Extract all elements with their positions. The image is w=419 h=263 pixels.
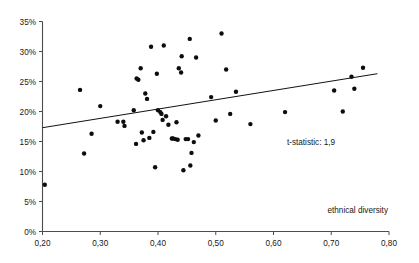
data-point xyxy=(209,95,213,99)
data-point xyxy=(140,130,144,134)
data-point xyxy=(228,112,232,116)
data-point xyxy=(332,88,336,92)
data-point xyxy=(361,66,365,70)
data-point xyxy=(141,138,145,142)
data-point xyxy=(179,54,183,58)
scatter-chart-figure: 0%5%10%15%20%25%30%35% 0,200,300,400,500… xyxy=(0,0,419,263)
y-tick-label: 10% xyxy=(20,168,36,177)
data-point xyxy=(82,151,86,155)
y-tick-label: 5% xyxy=(24,198,36,207)
data-point xyxy=(188,163,192,167)
x-tick-label: 0,80 xyxy=(381,239,397,248)
data-point xyxy=(166,123,170,127)
x-tick-label: 0,70 xyxy=(323,239,339,248)
x-tick-label: 0,20 xyxy=(35,239,51,248)
data-point xyxy=(115,120,119,124)
y-tick-label: 30% xyxy=(20,48,36,57)
data-point xyxy=(132,108,136,112)
data-point xyxy=(219,31,223,35)
data-point xyxy=(192,140,196,144)
data-point xyxy=(196,133,200,137)
data-point xyxy=(98,104,102,108)
data-point xyxy=(153,165,157,169)
data-point xyxy=(160,118,164,122)
data-point xyxy=(179,70,183,74)
chart-background xyxy=(0,0,419,263)
data-point xyxy=(78,88,82,92)
data-point xyxy=(341,109,345,113)
y-tick-label: 0% xyxy=(24,228,36,237)
data-point xyxy=(151,130,155,134)
data-point xyxy=(181,168,185,172)
chart-annotations: t-statistic: 1,9 xyxy=(287,138,336,147)
data-point xyxy=(234,90,238,94)
x-tick-label: 0,40 xyxy=(150,239,166,248)
data-point xyxy=(248,122,252,126)
x-tick-label: 0,30 xyxy=(92,239,108,248)
data-point xyxy=(174,120,178,124)
scatter-plot-svg: 0%5%10%15%20%25%30%35% 0,200,300,400,500… xyxy=(0,0,419,263)
x-tick-label: 0,50 xyxy=(208,239,224,248)
data-point xyxy=(134,142,138,146)
data-point xyxy=(188,37,192,41)
data-point xyxy=(89,132,93,136)
data-point xyxy=(143,91,147,95)
y-tick-label: 25% xyxy=(20,78,36,87)
data-point xyxy=(189,151,193,155)
y-tick-label: 20% xyxy=(20,108,36,117)
data-point xyxy=(122,124,126,128)
data-point xyxy=(214,118,218,122)
data-point xyxy=(138,66,142,70)
data-point xyxy=(155,72,159,76)
y-tick-label: 15% xyxy=(20,138,36,147)
data-point xyxy=(352,87,356,91)
data-point xyxy=(177,66,181,70)
data-point xyxy=(186,137,190,141)
data-point xyxy=(145,97,149,101)
x-tick-label: 0,60 xyxy=(266,239,282,248)
data-point xyxy=(136,78,140,82)
data-point xyxy=(283,110,287,114)
y-tick-label: 35% xyxy=(20,18,36,27)
data-point xyxy=(175,138,179,142)
data-point xyxy=(43,183,47,187)
data-point xyxy=(147,136,151,140)
x-axis-title: ethnical diversity xyxy=(327,206,388,215)
data-point xyxy=(194,55,198,59)
data-point xyxy=(224,67,228,71)
data-point xyxy=(162,43,166,47)
chart-annotation-label: t-statistic: 1,9 xyxy=(287,138,336,147)
data-point xyxy=(121,120,125,124)
data-point xyxy=(159,112,163,116)
data-point xyxy=(149,45,153,49)
data-point xyxy=(164,114,168,118)
